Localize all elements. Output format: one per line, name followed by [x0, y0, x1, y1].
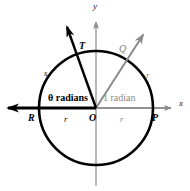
point-label-q: Q — [119, 44, 126, 54]
radius-label-gray: r — [146, 71, 150, 80]
point-label-p: P — [152, 113, 158, 123]
radian-measure-figure: y x T Q R P O s r r r θ radians 1 radian — [0, 0, 190, 191]
y-axis-label: y — [93, 2, 97, 11]
radius-label-right: r — [120, 115, 124, 124]
angle-label-one-radian: 1 radian — [103, 93, 136, 103]
angle-label-theta: θ radians — [48, 93, 88, 103]
point-label-origin: O — [89, 113, 96, 123]
point-label-r: R — [28, 113, 35, 123]
arc-length-label-s: s — [44, 69, 48, 78]
x-axis-label: x — [179, 99, 183, 108]
figure-canvas — [0, 0, 190, 191]
radius-label-left: r — [64, 115, 68, 124]
point-label-t: T — [79, 41, 85, 51]
